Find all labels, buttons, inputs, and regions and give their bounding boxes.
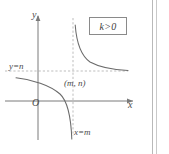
horizontal-asymptote-label: y=n bbox=[9, 62, 24, 71]
origin-label: O bbox=[32, 98, 39, 108]
x-axis-label: x bbox=[128, 100, 132, 110]
condition-box: k>0 bbox=[89, 17, 127, 35]
figure-container: y x O y=n (m, n) x=m k>0 bbox=[0, 0, 169, 154]
condition-box-label: k>0 bbox=[90, 18, 126, 34]
center-point-label: (m, n) bbox=[64, 79, 86, 88]
y-axis-label: y bbox=[32, 10, 36, 20]
vertical-asymptote-label: x=m bbox=[74, 128, 91, 137]
